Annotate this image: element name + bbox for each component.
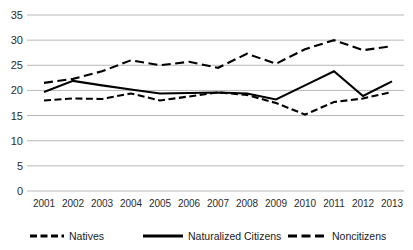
x-axis-label-2013: 2013 xyxy=(381,198,404,209)
legend-label-noncitizens: Noncitizens xyxy=(332,230,386,242)
y-axis-label-5: 5 xyxy=(17,160,23,172)
line-chart: 05101520253035 2001200220032004200520062… xyxy=(0,0,413,250)
y-axis-label-35: 35 xyxy=(11,9,23,21)
x-axis-label-2003: 2003 xyxy=(91,198,114,209)
x-axis-label-2012: 2012 xyxy=(352,198,375,209)
y-axis-label-25: 25 xyxy=(11,59,23,71)
x-axis-label-2004: 2004 xyxy=(120,198,143,209)
y-axis-label-0: 0 xyxy=(17,185,23,197)
x-axis-label-2008: 2008 xyxy=(236,198,259,209)
x-axis-label-2001: 2001 xyxy=(33,198,56,209)
y-axis-label-20: 20 xyxy=(11,84,23,96)
y-axis-label-15: 15 xyxy=(11,110,23,122)
chart-canvas: 05101520253035 2001200220032004200520062… xyxy=(0,0,413,250)
legend-label-naturalized-citizens: Naturalized Citizens xyxy=(188,230,281,242)
x-axis-label-2006: 2006 xyxy=(178,198,201,209)
x-axis-label-2002: 2002 xyxy=(62,198,85,209)
y-axis-label-10: 10 xyxy=(11,135,23,147)
x-axis-label-2009: 2009 xyxy=(265,198,288,209)
chart-legend: NativesNaturalized CitizensNoncitizens xyxy=(30,230,386,242)
legend-label-natives: Natives xyxy=(69,230,104,242)
chart-background xyxy=(0,0,413,250)
x-axis-label-2005: 2005 xyxy=(149,198,172,209)
x-axis-label-2007: 2007 xyxy=(207,198,230,209)
x-axis-label-2011: 2011 xyxy=(323,198,345,209)
y-axis-label-30: 30 xyxy=(11,34,23,46)
x-axis-label-2010: 2010 xyxy=(294,198,317,209)
